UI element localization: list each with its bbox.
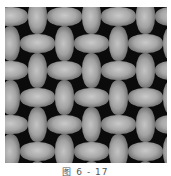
weft-yarn: [128, 88, 163, 107]
warp-yarn: [163, 80, 167, 115]
warp-yarn: [28, 161, 47, 163]
warp-yarn: [5, 26, 20, 61]
warp-yarn: [82, 161, 101, 163]
warp-yarn: [55, 134, 74, 163]
weft-yarn: [74, 34, 109, 53]
warp-yarn: [28, 7, 47, 34]
weft-yarn: [128, 142, 163, 161]
weft-yarn: [20, 34, 55, 53]
woven-fabric-image: [5, 7, 167, 163]
warp-yarn: [82, 53, 101, 88]
warp-yarn: [136, 107, 155, 142]
warp-yarn: [5, 134, 20, 163]
weft-yarn: [101, 7, 136, 26]
warp-yarn: [82, 107, 101, 142]
weft-yarn: [128, 34, 163, 53]
warp-yarn: [5, 80, 20, 115]
weft-yarn: [74, 142, 109, 161]
warp-yarn: [109, 134, 128, 163]
warp-yarn: [28, 53, 47, 88]
warp-yarn: [163, 26, 167, 61]
weft-yarn: [155, 61, 167, 80]
figure-caption: 图 6 - 17: [0, 166, 171, 176]
warp-yarn: [55, 26, 74, 61]
warp-yarn: [136, 53, 155, 88]
weft-yarn: [5, 61, 28, 80]
weft-yarn: [155, 115, 167, 134]
warp-yarn: [163, 134, 167, 163]
weft-yarn: [47, 115, 82, 134]
warp-yarn: [82, 7, 101, 34]
weft-yarn: [101, 61, 136, 80]
weft-yarn: [20, 142, 55, 161]
weft-yarn: [47, 7, 82, 26]
weft-yarn: [74, 88, 109, 107]
warp-yarn: [136, 161, 155, 163]
weft-yarn: [155, 7, 167, 26]
weft-yarn: [20, 88, 55, 107]
warp-yarn: [55, 80, 74, 115]
weft-yarn: [101, 115, 136, 134]
figure: 图 6 - 17: [0, 0, 171, 176]
warp-yarn: [109, 80, 128, 115]
weft-yarn: [5, 115, 28, 134]
warp-yarn: [136, 7, 155, 34]
warp-yarn: [109, 26, 128, 61]
warp-yarn: [28, 107, 47, 142]
weft-yarn: [47, 61, 82, 80]
weft-yarn: [5, 7, 28, 26]
